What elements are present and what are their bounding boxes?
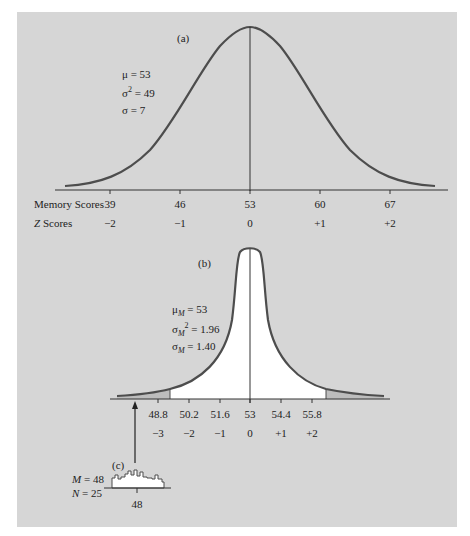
param-sigma-squared: σ2 = 49 (122, 85, 155, 99)
tick-label-b: 53 (245, 408, 256, 420)
tick-label-a: 67 (385, 198, 396, 210)
tick-label-a: 53 (245, 198, 256, 210)
tick-label-c: 48 (132, 498, 143, 510)
z-tick-label-b: 0 (247, 427, 253, 439)
tick-label-b: 50.2 (179, 408, 198, 420)
tick-label-b: 51.6 (210, 408, 229, 420)
param-sigma-m: σM = 1.40 (172, 340, 216, 355)
memory-scores-axis-label: Memory Scores (34, 198, 104, 210)
sample-mean: M = 48 (72, 473, 104, 485)
panel-c-label: (c) (112, 459, 124, 471)
param-sigma: σ = 7 (122, 104, 145, 116)
param-sigma-m-squared: σM2 = 1.96 (172, 321, 220, 338)
tick-label-a: 60 (315, 198, 326, 210)
tick-label-b: 55.8 (302, 408, 321, 420)
z-tick-label-a: 0 (247, 217, 253, 229)
tick-label-a: 39 (105, 198, 116, 210)
z-tick-label-b: +1 (275, 427, 287, 439)
z-tick-label-a: +2 (384, 217, 396, 229)
z-tick-label-a: −1 (174, 217, 186, 229)
tick-label-b: 54.4 (271, 408, 290, 420)
z-scores-axis-label: Z Scores (34, 217, 72, 229)
panel-b-label: (b) (198, 257, 211, 269)
tick-label-b: 48.8 (148, 408, 167, 420)
z-tick-label-b: −2 (183, 427, 195, 439)
z-tick-label-a: −2 (104, 217, 116, 229)
z-tick-label-b: +2 (306, 427, 318, 439)
z-tick-label-a: +1 (314, 217, 326, 229)
param-mu-m: μM = 53 (172, 303, 207, 318)
z-tick-label-b: −1 (214, 427, 226, 439)
param-mu: μ = 53 (122, 68, 151, 80)
figure-canvas (0, 0, 470, 536)
sample-size: N = 25 (72, 487, 102, 499)
z-tick-label-b: −3 (152, 427, 164, 439)
tick-label-a: 46 (175, 198, 186, 210)
panel-a-label: (a) (177, 32, 189, 44)
